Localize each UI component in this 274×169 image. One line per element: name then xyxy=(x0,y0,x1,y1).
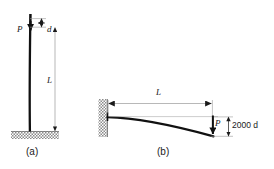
label-deflection-2000d-b: 2000 d xyxy=(232,121,258,130)
figure-canvas: P d L (a) L P 2000 d (b) xyxy=(0,0,274,169)
ground-support-a xyxy=(11,132,59,140)
label-length-l-b: L xyxy=(156,88,161,97)
panel-b-group xyxy=(99,99,234,137)
diagram-svg xyxy=(0,0,274,169)
label-length-l-a: L xyxy=(47,76,52,85)
label-load-p-b: P xyxy=(215,119,221,128)
caption-figure-a: (a) xyxy=(26,147,38,157)
label-load-p-a: P xyxy=(17,25,23,34)
caption-figure-b: (b) xyxy=(157,147,169,157)
column-member-a xyxy=(30,14,31,132)
label-deflection-d-a: d xyxy=(47,25,52,34)
beam-member-b xyxy=(108,117,214,136)
wall-support-b xyxy=(99,99,108,137)
